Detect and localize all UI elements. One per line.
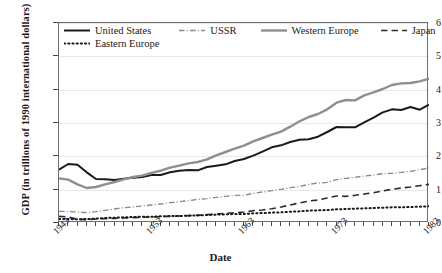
x-tick-mark bbox=[289, 222, 290, 226]
x-tick-mark bbox=[141, 222, 142, 226]
legend-item-western-europe[interactable]: Western Europe bbox=[261, 24, 359, 37]
series-lines bbox=[59, 23, 429, 223]
legend-item-eastern-europe[interactable]: Eastern Europe bbox=[64, 37, 159, 50]
legend-item-japan[interactable]: Japan bbox=[381, 24, 436, 37]
x-tick-mark bbox=[299, 222, 300, 226]
legend-item-ussr[interactable]: USSR bbox=[179, 24, 236, 37]
x-tick-mark bbox=[280, 222, 281, 226]
x-tick-mark bbox=[132, 222, 133, 226]
x-tick-mark bbox=[419, 222, 420, 226]
legend-swatch-icon bbox=[64, 38, 90, 49]
x-tick-mark bbox=[77, 222, 78, 226]
legend-label: United States bbox=[95, 24, 151, 37]
x-tick-mark bbox=[410, 222, 411, 226]
x-tick-mark bbox=[178, 222, 179, 226]
legend-label: USSR bbox=[210, 24, 236, 37]
x-tick-mark bbox=[197, 222, 198, 226]
legend-label: Japan bbox=[412, 24, 436, 37]
legend-item-united-states[interactable]: United States bbox=[64, 24, 151, 37]
x-tick-mark bbox=[95, 222, 96, 226]
x-tick-mark bbox=[308, 222, 309, 226]
x-tick-mark bbox=[104, 222, 105, 226]
plot-area bbox=[58, 22, 428, 222]
series-line-eastern-europe bbox=[59, 206, 429, 219]
series-line-western-europe bbox=[59, 79, 429, 188]
x-tick-mark bbox=[262, 222, 263, 226]
x-tick-label: 1943 bbox=[51, 216, 72, 237]
x-tick-mark bbox=[271, 222, 272, 226]
x-tick-mark bbox=[169, 222, 170, 226]
x-tick-mark bbox=[373, 222, 374, 226]
x-tick-mark bbox=[363, 222, 364, 226]
legend-label: Western Europe bbox=[292, 24, 359, 37]
x-tick-mark bbox=[400, 222, 401, 226]
legend-row: Eastern Europe bbox=[64, 37, 416, 50]
x-tick-mark bbox=[206, 222, 207, 226]
x-tick-mark bbox=[354, 222, 355, 226]
x-tick-mark bbox=[326, 222, 327, 226]
x-tick-mark bbox=[382, 222, 383, 226]
x-tick-mark bbox=[114, 222, 115, 226]
x-tick-mark bbox=[215, 222, 216, 226]
x-tick-mark bbox=[123, 222, 124, 226]
x-tick-mark bbox=[225, 222, 226, 226]
legend-swatch-icon bbox=[381, 25, 407, 36]
y-axis-title: GDP (in trillions of 1990 international … bbox=[20, 0, 31, 225]
legend-swatch-icon bbox=[179, 25, 205, 36]
x-tick-mark bbox=[234, 222, 235, 226]
legend-label: Eastern Europe bbox=[95, 37, 159, 50]
series-line-ussr bbox=[59, 168, 429, 213]
x-tick-mark bbox=[391, 222, 392, 226]
x-tick-mark bbox=[86, 222, 87, 226]
legend-row: United StatesUSSRWestern EuropeJapan bbox=[64, 24, 416, 37]
x-tick-mark bbox=[317, 222, 318, 226]
legend-swatch-icon bbox=[64, 25, 90, 36]
legend-swatch-icon bbox=[261, 25, 287, 36]
x-axis-title: Date bbox=[0, 251, 441, 263]
series-line-united-states bbox=[59, 105, 429, 180]
chart-legend: United StatesUSSRWestern EuropeJapanEast… bbox=[64, 24, 416, 50]
x-tick-mark bbox=[188, 222, 189, 226]
